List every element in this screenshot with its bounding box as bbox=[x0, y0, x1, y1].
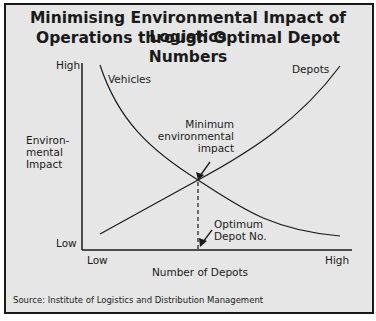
y-axis-label-line2: mental bbox=[26, 146, 63, 158]
vehicles-curve-label: Vehicles bbox=[108, 73, 151, 85]
y-axis-low-label: Low bbox=[56, 237, 77, 249]
x-axis-label: Number of Depots bbox=[150, 266, 250, 278]
y-axis-label-line3: Impact bbox=[26, 158, 62, 170]
optimum-label-line1: Optimum bbox=[214, 218, 263, 230]
x-axis-low-label: Low bbox=[87, 254, 108, 266]
depots-curve-label: Depots bbox=[292, 63, 329, 75]
minimum-label-line2: environmental bbox=[155, 130, 234, 142]
minimum-label-line3: impact bbox=[180, 142, 234, 154]
y-axis-label-line1: Environ- bbox=[26, 134, 69, 146]
x-axis-high-label: High bbox=[325, 254, 349, 266]
optimum-arrowhead bbox=[199, 238, 207, 247]
minimum-label-line1: Minimum bbox=[180, 118, 234, 130]
optimum-label-line2: Depot No. bbox=[214, 230, 267, 242]
y-axis-high-label: High bbox=[56, 59, 80, 71]
source-note: Source: Institute of Logistics and Distr… bbox=[13, 294, 263, 306]
